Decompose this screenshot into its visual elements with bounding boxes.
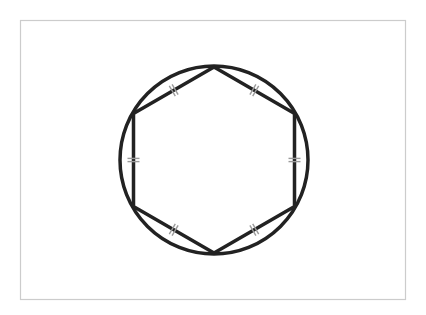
frame-border: [21, 21, 406, 300]
inscribed-hexagon: [134, 67, 295, 253]
circumscribed-circle: [120, 66, 308, 254]
congruence-tick-marks: [128, 84, 301, 235]
diagram-canvas: [0, 0, 426, 315]
